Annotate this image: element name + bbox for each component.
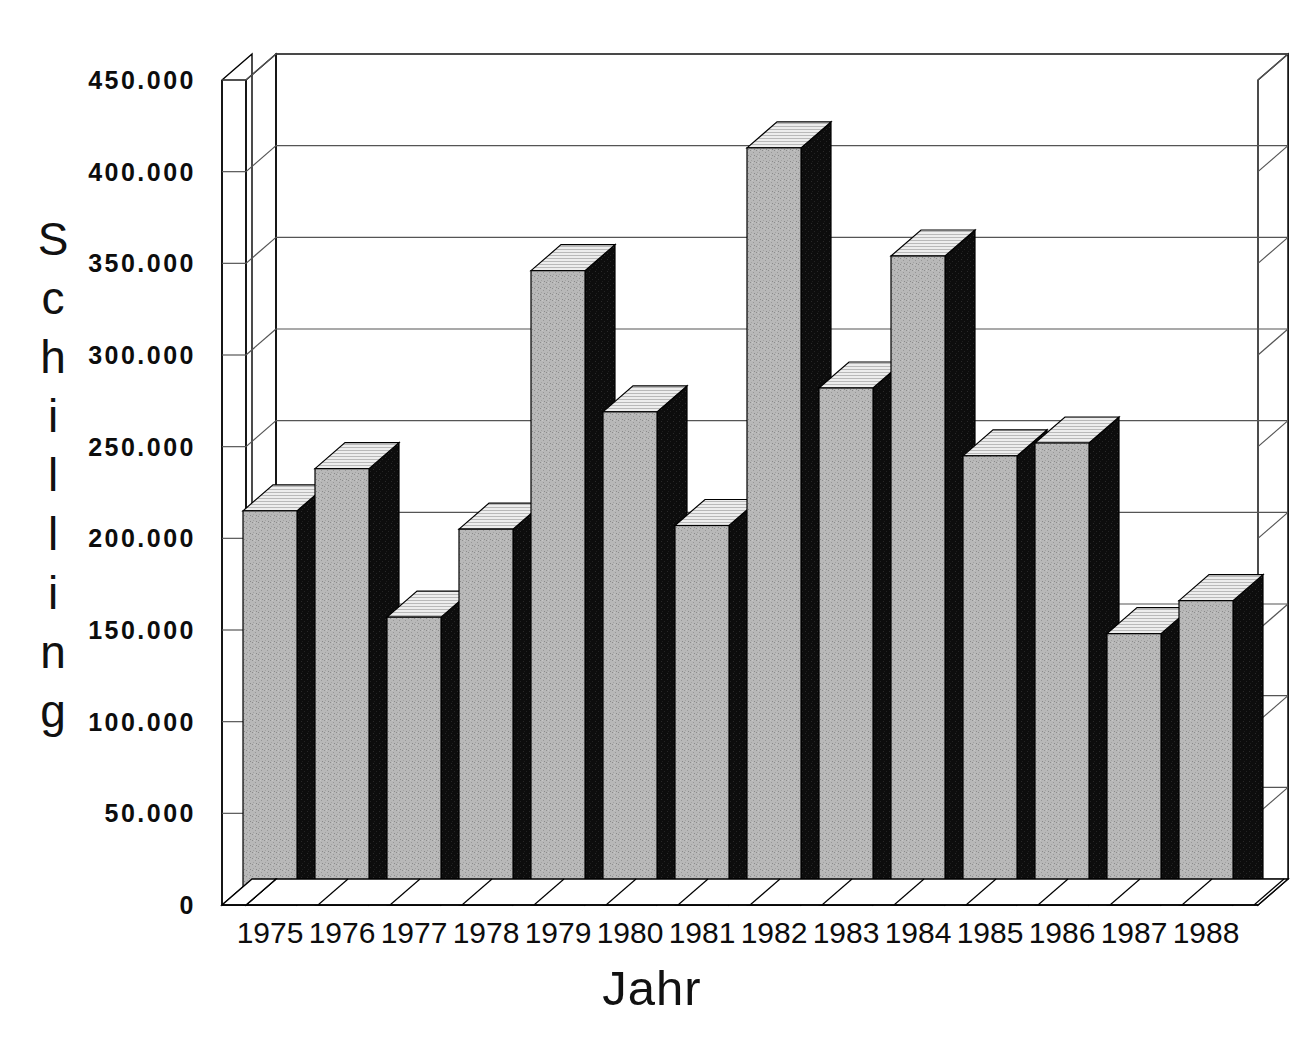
- bar-1988: [1179, 575, 1263, 905]
- bar-chart: Schilling 050.000100.000150.000200.00025…: [0, 0, 1304, 1039]
- bar-1975: [243, 485, 327, 905]
- plot-area: [0, 0, 1304, 1039]
- bar-1977: [387, 591, 471, 905]
- bar-1976: [315, 443, 399, 905]
- floor-plane: [222, 879, 1288, 905]
